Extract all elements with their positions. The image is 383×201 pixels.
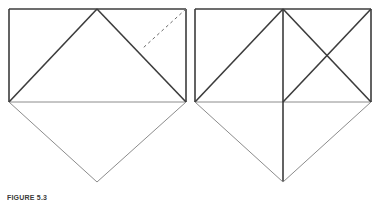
- figure-caption-label: FIGURE 5.3: [7, 194, 47, 201]
- lower-right-side: [97, 102, 186, 182]
- geometry-figure-pair: [0, 0, 383, 201]
- triangle-left-side: [195, 9, 283, 102]
- figure-caption: FIGURE 5.3: [7, 193, 377, 201]
- triangle-left-side: [9, 9, 97, 102]
- triangle-right-side: [97, 9, 186, 102]
- figure-left: [9, 9, 186, 182]
- lower-left-side: [195, 102, 283, 182]
- lower-right-side: [283, 102, 371, 182]
- lower-left-side: [9, 102, 97, 182]
- figure-right: [195, 9, 371, 182]
- fold-crease-dashed-icon: [143, 9, 186, 48]
